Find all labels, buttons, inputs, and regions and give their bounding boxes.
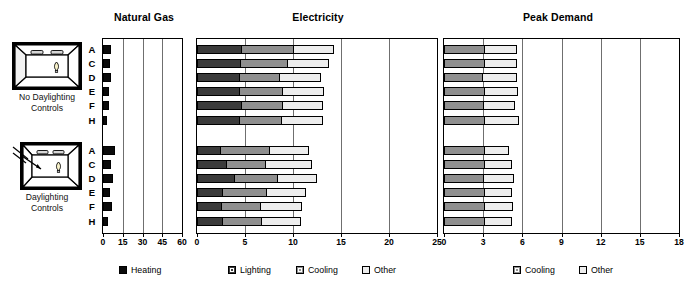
bar-segment-lighting bbox=[197, 116, 240, 125]
bar-segment-heating bbox=[103, 188, 110, 197]
legend-swatch-other-icon bbox=[362, 266, 370, 274]
group-caption-line2: Controls bbox=[31, 203, 63, 213]
axis-tick-label: 30 bbox=[138, 237, 148, 247]
axis-tick-label: 10 bbox=[288, 237, 298, 247]
bar-electricity-no-daylighting-controls-E bbox=[197, 87, 324, 96]
bar-segment-other bbox=[266, 188, 306, 197]
bar-segment-lighting bbox=[197, 45, 242, 54]
legend-cooling[interactable]: Cooling bbox=[296, 265, 338, 275]
bar-peak-demand-daylighting-controls-F bbox=[444, 202, 513, 211]
bar-segment-heating bbox=[103, 116, 107, 125]
bar-segment-other bbox=[260, 202, 301, 211]
bar-segment-other bbox=[293, 45, 334, 54]
row-label-daylighting-F: F bbox=[86, 202, 98, 211]
bar-segment-cooling bbox=[241, 101, 283, 110]
bar-peak-demand-no-daylighting-controls-F bbox=[444, 101, 515, 110]
bar-segment-lighting bbox=[197, 174, 235, 183]
axis-electricity: 0510152025 bbox=[196, 234, 438, 250]
bar-segment-cooling bbox=[240, 59, 288, 68]
bar-segment-lighting bbox=[197, 146, 221, 155]
bar-segment-cooling bbox=[444, 73, 483, 82]
group-caption-no-daylighting: No Daylighting Controls bbox=[8, 92, 86, 113]
bar-segment-cooling bbox=[234, 174, 277, 183]
bar-segment-lighting bbox=[197, 73, 240, 82]
gridline bbox=[601, 39, 602, 233]
bar-natural-gas-daylighting-controls-E bbox=[103, 188, 110, 197]
legend-swatch-heating-icon bbox=[119, 266, 127, 274]
bar-natural-gas-no-daylighting-controls-D bbox=[103, 73, 111, 82]
bar-electricity-daylighting-controls-A bbox=[197, 146, 309, 155]
gridline bbox=[123, 39, 124, 233]
bar-segment-other bbox=[277, 174, 317, 183]
row-label-no-daylighting-F: F bbox=[86, 101, 98, 110]
axis-tick-label: 9 bbox=[559, 237, 564, 247]
bar-peak-demand-no-daylighting-controls-C bbox=[444, 59, 517, 68]
bar-segment-other bbox=[279, 73, 321, 82]
row-label-daylighting-E: E bbox=[86, 188, 98, 197]
legend-label: Heating bbox=[131, 265, 161, 275]
bar-peak-demand-daylighting-controls-D bbox=[444, 174, 514, 183]
gridline bbox=[143, 39, 144, 233]
bar-segment-other bbox=[482, 73, 517, 82]
legend-heating[interactable]: Heating bbox=[119, 265, 161, 275]
bar-natural-gas-daylighting-controls-A bbox=[103, 146, 115, 155]
bar-segment-other bbox=[484, 45, 516, 54]
bar-electricity-no-daylighting-controls-D bbox=[197, 73, 321, 82]
bar-natural-gas-daylighting-controls-F bbox=[103, 202, 112, 211]
row-label-daylighting-A: A bbox=[86, 146, 98, 155]
bar-segment-cooling bbox=[444, 160, 485, 169]
bar-segment-other bbox=[484, 59, 516, 68]
row-label-daylighting-D: D bbox=[86, 174, 98, 183]
axis-tick-label: 15 bbox=[336, 237, 346, 247]
axis-natural-gas: 015304560 bbox=[102, 234, 183, 250]
bar-segment-heating bbox=[103, 217, 108, 226]
bar-peak-demand-no-daylighting-controls-E bbox=[444, 87, 518, 96]
bar-segment-cooling bbox=[444, 146, 485, 155]
bar-segment-heating bbox=[103, 202, 112, 211]
bar-segment-cooling bbox=[444, 202, 485, 211]
legend-peak-cooling[interactable]: Cooling bbox=[513, 265, 555, 275]
bar-peak-demand-no-daylighting-controls-D bbox=[444, 73, 517, 82]
bar-segment-cooling bbox=[221, 202, 261, 211]
bar-segment-lighting bbox=[197, 188, 223, 197]
bar-electricity-daylighting-controls-F bbox=[197, 202, 302, 211]
legend-label: Lighting bbox=[240, 265, 271, 275]
bar-segment-heating bbox=[103, 59, 110, 68]
bar-segment-heating bbox=[103, 160, 111, 169]
bar-natural-gas-daylighting-controls-C bbox=[103, 160, 111, 169]
bar-segment-cooling bbox=[220, 146, 270, 155]
bar-segment-other bbox=[484, 217, 511, 226]
room-daylighting-icon bbox=[12, 142, 82, 190]
row-label-no-daylighting-A: A bbox=[86, 45, 98, 54]
group-caption-line1: No Daylighting bbox=[19, 92, 75, 102]
legend-label: Other bbox=[374, 265, 396, 275]
bar-segment-other bbox=[282, 87, 323, 96]
axis-tick-label: 0 bbox=[442, 237, 447, 247]
bar-segment-cooling bbox=[239, 116, 281, 125]
axis-tick-label: 25 bbox=[432, 237, 442, 247]
bar-segment-lighting bbox=[197, 59, 241, 68]
axis-peak-demand: 0369121518 bbox=[443, 234, 680, 250]
row-label-no-daylighting-D: D bbox=[86, 73, 98, 82]
bar-segment-cooling bbox=[444, 174, 484, 183]
bar-electricity-no-daylighting-controls-C bbox=[197, 59, 329, 68]
legend-peak-other[interactable]: Other bbox=[579, 265, 613, 275]
bar-electricity-no-daylighting-controls-A bbox=[197, 45, 334, 54]
bar-segment-lighting bbox=[197, 87, 240, 96]
bar-segment-heating bbox=[103, 45, 111, 54]
axis-tick-label: 5 bbox=[243, 237, 248, 247]
row-label-no-daylighting-E: E bbox=[86, 87, 98, 96]
axis-tick-label: 15 bbox=[635, 237, 645, 247]
legend-swatch-other-icon bbox=[579, 266, 587, 274]
bar-peak-demand-daylighting-controls-A bbox=[444, 146, 509, 155]
axis-tick-label: 60 bbox=[177, 237, 187, 247]
room-no-daylighting-icon bbox=[12, 42, 82, 90]
legend-label: Cooling bbox=[525, 265, 555, 275]
bar-segment-cooling bbox=[444, 188, 485, 197]
axis-tick-label: 18 bbox=[674, 237, 684, 247]
legend-lighting[interactable]: Lighting bbox=[228, 265, 271, 275]
row-label-daylighting-H: H bbox=[86, 217, 98, 226]
legend-other[interactable]: Other bbox=[362, 265, 396, 275]
group-caption-line1: Daylighting bbox=[26, 192, 69, 202]
gridline bbox=[640, 39, 641, 233]
